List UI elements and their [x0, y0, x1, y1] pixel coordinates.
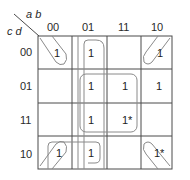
- corner-bottom-left-loop: [40, 141, 67, 169]
- col-header-01: 01: [82, 21, 94, 33]
- col-var-label: a b: [26, 8, 41, 20]
- cell-11-01: 1: [88, 114, 94, 126]
- cell-01-10: 1: [156, 80, 162, 92]
- row-header-10: 10: [20, 148, 32, 160]
- col-header-11: 11: [118, 21, 129, 33]
- col-header-00: 00: [47, 21, 59, 33]
- cell-01-01: 1: [88, 80, 94, 92]
- cell-10-01: 1: [88, 147, 94, 159]
- row-header-01: 01: [20, 80, 32, 92]
- cell-10-00: 1: [56, 147, 62, 159]
- cell-00-10: 1: [157, 47, 163, 59]
- cell-11-11: 1*: [122, 114, 133, 126]
- row-var-label: c d: [7, 25, 23, 37]
- col-header-10: 10: [151, 21, 163, 33]
- row-header-00: 00: [20, 46, 32, 58]
- cell-00-01: 1: [88, 47, 94, 59]
- cell-01-11: 1: [122, 80, 128, 92]
- cell-10-10: 1*: [154, 147, 165, 159]
- karnaugh-map: a b c d 00 01 11 10 00 01 11 10 1 1 1 1: [0, 0, 190, 180]
- row-header-11: 11: [20, 114, 31, 126]
- cell-00-00: 1: [54, 47, 60, 59]
